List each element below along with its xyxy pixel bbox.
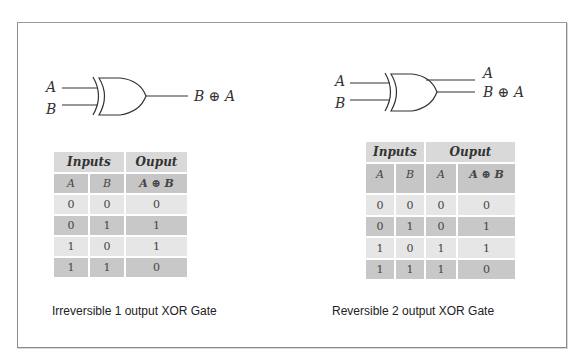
table-cell: 0 <box>53 215 89 236</box>
table-row: 1 0 1 <box>53 236 188 257</box>
table-row: 1 1 1 0 <box>365 259 516 280</box>
table-cell: 1 <box>395 216 425 237</box>
table-cell: 0 <box>395 237 425 259</box>
input-a-label: A <box>333 73 345 89</box>
output-a-label: A <box>481 65 493 81</box>
table-cell: 0 <box>365 194 395 216</box>
column-header: B <box>395 163 425 194</box>
table-cell: 1 <box>425 259 457 280</box>
table-cell: 0 <box>125 194 188 215</box>
table-cell: 0 <box>425 216 457 237</box>
table-cell: 0 <box>89 236 125 257</box>
table-cell: 0 <box>457 194 516 216</box>
table-cell: 1 <box>89 257 125 278</box>
group-header-inputs: Inputs <box>365 141 425 163</box>
table-cell: 1 <box>457 216 516 237</box>
table-cell: 0 <box>395 194 425 216</box>
table-cell: 1 <box>365 237 395 259</box>
table-row: 1 0 1 1 <box>365 237 516 259</box>
truth-table-irreversible: Inputs Ouput A B A ⊕ B 0 0 0 0 1 1 1 0 1… <box>52 150 189 279</box>
table-cell: 0 <box>53 194 89 215</box>
column-header: A <box>425 163 457 194</box>
table-cell: 1 <box>125 215 188 236</box>
input-b-label: B <box>334 95 345 111</box>
caption-irreversible: Irreversible 1 output XOR Gate <box>52 304 217 318</box>
column-header: A ⊕ B <box>125 173 188 194</box>
table-cell: 1 <box>395 259 425 280</box>
group-header-output: Ouput <box>425 141 516 163</box>
table-cell: 0 <box>425 194 457 216</box>
table-cell: 1 <box>457 237 516 259</box>
group-header-inputs: Inputs <box>53 151 125 173</box>
table-cell: 1 <box>53 257 89 278</box>
group-header-output: Ouput <box>125 151 188 173</box>
table-cell: 1 <box>425 237 457 259</box>
table-row: 1 1 0 <box>53 257 188 278</box>
table-row: 0 1 1 <box>53 215 188 236</box>
truth-table-reversible: Inputs Ouput A B A A ⊕ B 0 0 0 0 0 1 0 1… <box>364 140 517 281</box>
table-row: 0 1 0 1 <box>365 216 516 237</box>
column-header: A ⊕ B <box>457 163 516 194</box>
table-cell: 0 <box>125 257 188 278</box>
table-cell: 1 <box>365 259 395 280</box>
table-cell: 0 <box>365 216 395 237</box>
table-row: 0 0 0 0 <box>365 194 516 216</box>
table-cell: 1 <box>125 236 188 257</box>
table-cell: 0 <box>457 259 516 280</box>
caption-reversible: Reversible 2 output XOR Gate <box>332 304 494 318</box>
column-header: A <box>365 163 395 194</box>
column-header: B <box>89 173 125 194</box>
column-header: A <box>53 173 89 194</box>
table-cell: 0 <box>89 194 125 215</box>
table-row: 0 0 0 <box>53 194 188 215</box>
table-cell: 1 <box>53 236 89 257</box>
output-xor-label: B ⊕ A <box>482 84 524 100</box>
table-cell: 1 <box>89 215 125 236</box>
